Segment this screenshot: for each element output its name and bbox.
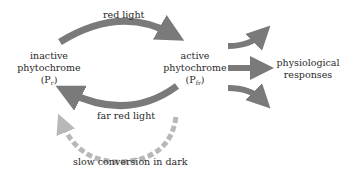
response-arrow-up: [228, 34, 262, 46]
far-red-light-label: far red light: [97, 110, 155, 122]
pfr-symbol: (Pfr): [160, 74, 230, 89]
phytochrome-diagram: red light inactive phytochrome (Pr) acti…: [0, 0, 346, 176]
active-label: active: [160, 50, 230, 62]
physiological-responses-node: physiological responses: [270, 57, 346, 81]
response-arrow-down: [228, 88, 262, 100]
inactive-phytochrome-label: phytochrome: [14, 62, 84, 74]
inactive-phytochrome-node: inactive phytochrome (Pr): [14, 50, 84, 89]
dark-conversion-label: slow conversion in dark: [73, 156, 187, 168]
red-light-label: red light: [103, 9, 144, 21]
pr-symbol: (Pr): [14, 74, 84, 89]
active-phytochrome-node: active phytochrome (Pfr): [160, 50, 230, 89]
red-light-arrow: [60, 21, 172, 42]
active-phytochrome-label: phytochrome: [160, 62, 230, 74]
inactive-label: inactive: [14, 50, 84, 62]
